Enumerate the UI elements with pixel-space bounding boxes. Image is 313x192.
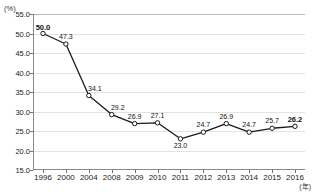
data-point-marker [155, 121, 159, 125]
data-point-label: 26.9 [128, 113, 142, 120]
data-point-label: 26.9 [219, 113, 233, 120]
data-point-marker [132, 121, 136, 125]
line-chart: (%) (年) 55.050.045.040.035.030.025.020.0… [0, 0, 313, 192]
data-point-marker [224, 121, 228, 125]
data-point-label: 34.1 [88, 85, 102, 92]
data-point-marker [293, 124, 297, 128]
data-point-marker [41, 31, 45, 35]
data-point-label: 27.1 [151, 112, 165, 119]
data-point-label: 24.7 [242, 121, 256, 128]
data-point-label: 25.7 [265, 117, 279, 124]
data-point-label: 47.3 [59, 33, 73, 40]
data-point-marker [201, 130, 205, 134]
data-point-marker [87, 93, 91, 97]
data-point-marker [270, 126, 274, 130]
data-point-label: 23.0 [174, 142, 188, 149]
data-point-marker [178, 137, 182, 141]
data-point-label: 29.2 [111, 104, 125, 111]
data-point-label: 26.2 [288, 115, 303, 124]
data-point-label: 50.0 [36, 23, 51, 32]
data-point-marker [247, 130, 251, 134]
data-point-label: 24.7 [197, 121, 211, 128]
data-point-marker [110, 112, 114, 116]
data-point-marker [64, 42, 68, 46]
